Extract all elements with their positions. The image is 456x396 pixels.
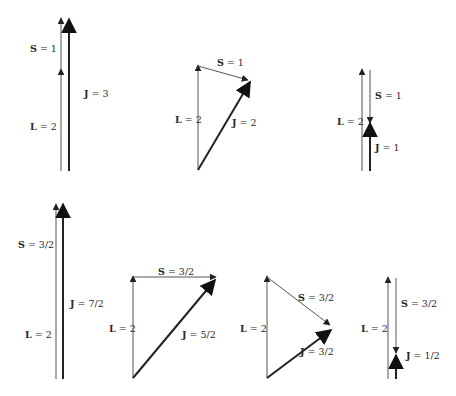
label-l: L = 2 [175,115,202,125]
label-j: J = 3/2 [300,347,334,357]
angular-momentum-coupling-diagram: S = 1 L = 2 J = 3 S = 1 L = 2 J = 2 S = … [0,0,456,396]
label-l: L = 2 [109,324,136,334]
panel-j7-2 [56,204,63,379]
label-l: L = 2 [337,117,364,127]
label-l: L = 2 [30,122,57,132]
label-s: S = 1 [30,44,57,54]
label-j: J = 2 [232,118,257,128]
label-l: L = 2 [25,330,52,340]
label-j: J = 5/2 [182,330,216,340]
label-s: S = 3/2 [18,240,54,250]
label-l: L = 2 [361,324,388,334]
label-j: J = 7/2 [70,299,104,309]
panel-j3 [61,18,69,171]
label-j: J = 1 [375,143,400,153]
label-s: S = 3/2 [298,293,334,303]
panel-j1-2 [388,277,396,379]
label-s: S = 1 [217,58,244,68]
label-l: L = 2 [240,324,267,334]
panel-j5-2 [133,276,216,378]
label-s: S = 1 [375,91,402,101]
label-s: S = 3/2 [401,299,437,309]
s-vector [198,66,248,80]
label-j: J = 1/2 [406,351,440,361]
label-s: S = 3/2 [158,267,194,277]
label-j: J = 3 [84,89,109,99]
